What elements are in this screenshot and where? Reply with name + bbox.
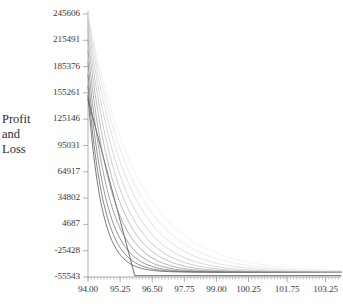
y-tick-label: 64917	[18, 166, 80, 176]
series-line	[88, 39, 341, 272]
y-tick-label: -25428	[18, 245, 80, 255]
series-line	[88, 14, 341, 271]
series-line	[88, 14, 341, 271]
chart-container: Profit and Loss 245606215491185376155261…	[0, 0, 343, 308]
series-line	[88, 86, 341, 272]
series-line	[88, 22, 341, 272]
series-line	[88, 99, 341, 275]
y-tick-label: 245606	[18, 8, 80, 18]
y-tick-label: 125146	[18, 113, 80, 123]
series-line	[88, 29, 341, 272]
y-tick-label: 34802	[18, 192, 80, 202]
y-tick-label: 155261	[18, 87, 80, 97]
y-tick-label: 95031	[18, 140, 80, 150]
x-tick-label: 103.25	[302, 284, 343, 294]
y-tick-label: -55543	[18, 271, 80, 281]
plot-area	[0, 0, 343, 308]
y-tick-label: 4687	[18, 218, 80, 228]
series-line	[88, 96, 341, 272]
series-line	[88, 63, 341, 273]
series-line	[88, 16, 341, 272]
y-tick-label: 215491	[18, 34, 80, 44]
y-tick-label: 185376	[18, 61, 80, 71]
